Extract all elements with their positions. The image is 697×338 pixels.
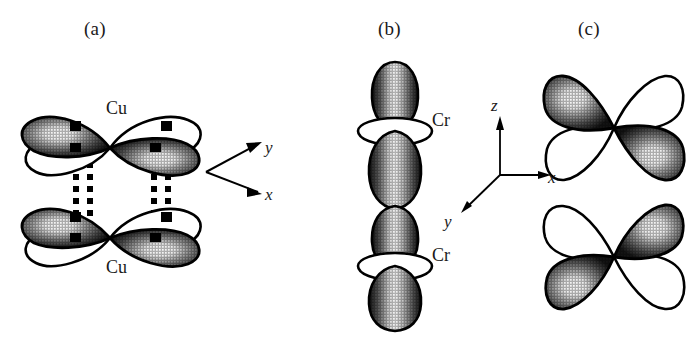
panel-a-artwork — [22, 117, 262, 266]
ligand-marker — [161, 121, 172, 131]
panel-label-b: (b) — [378, 18, 401, 40]
ligand-marker — [150, 143, 161, 152]
figure-canvas: (a) (b) (c) Cu Cu Cr Cr y x z x y — [0, 0, 697, 338]
cr-top-lower-lobe — [369, 131, 421, 209]
axis-label-a-x: x — [265, 185, 273, 205]
ligand-marker — [70, 233, 81, 242]
axis-b-y-line — [466, 175, 500, 208]
lobe-white-upper-left — [544, 206, 614, 259]
lobe-shaded-upper-left-texture — [22, 117, 110, 157]
ligand-marker — [150, 233, 161, 242]
cloverleaf-orbital-top — [544, 76, 684, 180]
atom-label-cr-bottom: Cr — [432, 245, 450, 266]
ligand-marker — [70, 212, 81, 222]
lobe-shaded-lower-left-texture — [546, 255, 614, 309]
panel-b-axes — [466, 122, 545, 208]
lobe-shaded-upper-right-texture — [614, 205, 683, 259]
panel-b-artwork — [358, 62, 551, 331]
ligand-marker — [70, 143, 81, 152]
panel-c-artwork — [544, 76, 684, 309]
axis-a-y-arrowhead — [246, 142, 262, 153]
ligand-marker — [70, 121, 81, 131]
lobe-white-upper-right — [614, 76, 683, 130]
cloverleaf-orbital-bottom — [544, 205, 684, 309]
cr-bottom-lower-lobe — [369, 266, 421, 331]
panel-label-a: (a) — [84, 18, 106, 40]
cu-orbital-top — [22, 117, 201, 175]
atom-label-cu-top: Cu — [106, 98, 127, 119]
axis-b-z-arrowhead — [496, 116, 504, 130]
atom-label-cr-top: Cr — [432, 110, 450, 131]
axis-label-b-z: z — [491, 96, 498, 116]
panel-label-c: (c) — [578, 18, 600, 40]
axis-label-b-x: x — [548, 168, 556, 188]
atom-label-cu-bottom: Cu — [106, 257, 127, 278]
lobe-white-lower-right — [614, 255, 684, 309]
axis-label-a-y: y — [265, 138, 273, 158]
ligand-marker — [161, 212, 172, 222]
axis-a-x-arrowhead — [247, 187, 262, 197]
orbital-diagram-artwork — [0, 0, 697, 338]
axis-label-b-y: y — [444, 212, 452, 232]
lobe-white-lower-left — [546, 126, 614, 180]
lobe-shaded-upper-left-texture — [22, 209, 110, 248]
